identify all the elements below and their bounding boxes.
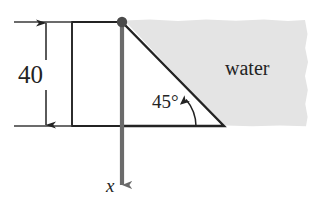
x-axis-arrow [117, 17, 127, 185]
diagram-canvas: 40 water 45° x [0, 0, 320, 207]
angle-arc-45 [186, 100, 196, 127]
water-label: water [225, 58, 269, 78]
angle-label-45: 45° [152, 92, 179, 111]
dimension-label-40: 40 [18, 62, 43, 87]
x-axis-label: x [106, 176, 114, 195]
rectangle-body [72, 22, 122, 126]
